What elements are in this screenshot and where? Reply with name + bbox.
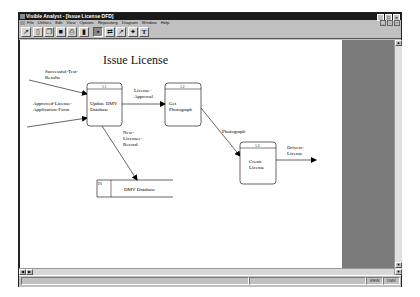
process-id: 1.1 — [102, 85, 107, 89]
data-store-dmv-database[interactable]: D1 DMV Database — [97, 180, 173, 197]
copy-icon: ❐ — [46, 28, 52, 36]
status-info-pane — [249, 277, 366, 285]
diagram-canvas[interactable]: Issue License Successful-Test- Results A… — [19, 40, 343, 268]
process-label: Get — [169, 101, 177, 106]
document-icon[interactable] — [20, 21, 25, 25]
print-icon: ⎙ — [69, 28, 75, 36]
flow-label: Licensee- — [123, 136, 143, 141]
print-button[interactable]: ⎙ — [67, 27, 77, 37]
text-icon: T — [142, 28, 147, 36]
flow-label: Results — [45, 75, 60, 80]
flow-label: Successful-Test- — [45, 69, 78, 74]
flow-label: New- — [123, 130, 134, 135]
app-window: Visible Analyst - [Issue License DFD] _ … — [18, 12, 402, 287]
process-label: Database — [90, 107, 109, 112]
object-icon: ✦ — [130, 28, 136, 36]
flow-label: Application-Form — [33, 107, 69, 112]
select-tool-button[interactable]: ▪ — [93, 27, 103, 37]
flow-label: Photograph — [222, 129, 246, 134]
diagram-title: Issue License — [103, 53, 168, 67]
process-update-dmv-database[interactable]: 1.1 Update DMV Database — [87, 83, 122, 126]
title-bar[interactable]: Visible Analyst - [Issue License DFD] _ … — [19, 13, 401, 20]
status-mode: VIEW — [366, 277, 383, 285]
process-label: License — [249, 165, 265, 170]
process-icon: ⇄ — [107, 28, 113, 36]
process-get-photograph[interactable]: 1.2 Get Photograph — [165, 83, 201, 126]
connect-tool-button[interactable]: ↗ — [116, 27, 126, 37]
window-title: Visible Analyst - [Issue License DFD] — [26, 13, 114, 19]
process-id: 1.2 — [180, 85, 185, 89]
new-page-icon: ▯ — [36, 28, 40, 36]
text-tool-button[interactable]: T — [139, 27, 149, 37]
process-label: Photograph — [169, 107, 193, 112]
flow-approved-license-application-form[interactable] — [27, 118, 87, 127]
object-tool-button[interactable]: ✦ — [128, 27, 138, 37]
trash-icon: ▮ — [82, 28, 86, 36]
open-icon: ↗ — [23, 28, 29, 36]
vertical-scrollbar[interactable]: ▲ ▼ ▼ — [394, 40, 402, 275]
process-tool-button[interactable]: ⇄ — [105, 27, 115, 37]
app-icon[interactable] — [20, 14, 25, 19]
toolbar: ↗ ▯ ❐ ■ ⎙ ▮ ▪ ⇄ ↗ ✦ T — [19, 25, 401, 39]
process-label: Update DMV — [90, 101, 118, 106]
scroll-up-arrow[interactable]: ▲ — [395, 40, 402, 46]
process-create-license[interactable]: 1.3 Create License — [240, 142, 276, 184]
copy-button[interactable]: ❐ — [44, 27, 54, 37]
line-icon: ↗ — [118, 28, 124, 36]
save-icon: ■ — [58, 28, 62, 36]
status-message-pane — [21, 277, 249, 285]
flow-label: Drivers- — [287, 145, 304, 150]
status-project: DMV — [383, 277, 400, 285]
pointer-icon: ▪ — [97, 28, 99, 36]
flow-successful-test-results[interactable] — [29, 80, 87, 94]
data-store-label: DMV Database — [124, 187, 156, 192]
save-button[interactable]: ■ — [56, 27, 66, 37]
off-page-area — [342, 40, 394, 268]
flow-label: License — [287, 151, 303, 156]
process-label: Create — [249, 159, 263, 164]
delete-button[interactable]: ▮ — [79, 27, 89, 37]
data-store-id: D1 — [98, 182, 103, 186]
flow-label: Approved-License- — [33, 101, 72, 106]
process-id: 1.3 — [255, 144, 260, 148]
scroll-down-arrow[interactable]: ▼ — [395, 262, 402, 268]
new-button[interactable]: ▯ — [33, 27, 43, 37]
flow-label: Record — [123, 142, 138, 147]
status-bar: VIEW DMV — [19, 275, 401, 287]
flow-label: Approval — [134, 94, 153, 99]
flow-label: License- — [134, 88, 152, 93]
open-button[interactable]: ↗ — [21, 27, 31, 37]
